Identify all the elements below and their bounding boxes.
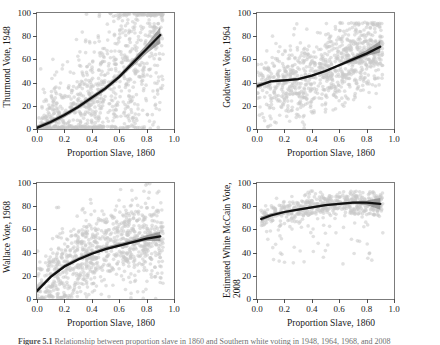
- y-tick-label: 0: [247, 124, 252, 134]
- scatter-points: [37, 13, 165, 129]
- x-tick-mark: [92, 299, 93, 303]
- y-tick-label: 100: [238, 178, 252, 188]
- y-axis-label: Estimated White McCain Vote, 2008: [222, 178, 240, 298]
- figure-caption-label: Figure 5.1: [18, 337, 53, 345]
- x-tick-label: 1.0: [168, 134, 179, 144]
- plot-area-mccain: [257, 183, 394, 299]
- y-tick-mark: [253, 59, 257, 60]
- panel-wallace-1968: Wallace Vote, 1968 020406080100 0.00.20.…: [0, 172, 220, 338]
- x-tick-label: 0.8: [361, 134, 372, 144]
- y-tick-label: 20: [242, 101, 251, 111]
- y-axis-label-line2: 2008: [232, 178, 242, 298]
- x-tick-mark: [64, 129, 65, 133]
- x-tick-label: 0.4: [86, 304, 97, 314]
- x-tick-mark: [394, 129, 395, 133]
- x-tick-label: 0.4: [306, 134, 317, 144]
- y-tick-label: 60: [22, 54, 31, 64]
- x-axis-label: Proportion Slave, 1860: [246, 148, 416, 158]
- figure-container: Thurmond Vote, 1948 020406080100 0.00.20…: [0, 0, 440, 345]
- x-tick-label: 0.2: [279, 304, 290, 314]
- plot-frame: 020406080100 0.00.20.40.60.81.0: [256, 12, 395, 130]
- x-tick-mark: [174, 299, 175, 303]
- y-tick-mark: [33, 83, 37, 84]
- y-tick-label: 0: [27, 124, 32, 134]
- x-tick-mark: [339, 129, 340, 133]
- x-tick-label: 0.8: [141, 134, 152, 144]
- x-tick-label: 0.4: [86, 134, 97, 144]
- y-tick-mark: [33, 206, 37, 207]
- y-axis-label-line1: Estimated White McCain Vote,: [222, 178, 232, 298]
- x-tick-mark: [119, 299, 120, 303]
- y-tick-mark: [253, 229, 257, 230]
- x-tick-mark: [92, 129, 93, 133]
- x-tick-label: 0.0: [31, 134, 42, 144]
- y-tick-label: 60: [242, 54, 251, 64]
- figure-caption-text: Relationship between proportion slave in…: [55, 337, 391, 345]
- y-tick-label: 0: [247, 294, 252, 304]
- x-tick-label: 1.0: [168, 304, 179, 314]
- y-tick-label: 40: [242, 248, 251, 258]
- y-tick-label: 80: [22, 201, 31, 211]
- x-tick-label: 0.6: [334, 304, 345, 314]
- x-axis-label: Proportion Slave, 1860: [246, 318, 416, 328]
- scatter-points: [257, 20, 384, 129]
- plot-frame: 020406080100 0.00.20.40.60.81.0: [256, 182, 395, 300]
- x-tick-label: 0.2: [279, 134, 290, 144]
- x-tick-mark: [37, 129, 38, 133]
- x-tick-label: 0.0: [31, 304, 42, 314]
- y-tick-mark: [253, 276, 257, 277]
- x-tick-label: 0.8: [141, 304, 152, 314]
- x-tick-mark: [64, 299, 65, 303]
- y-tick-label: 40: [22, 78, 31, 88]
- x-axis-label: Proportion Slave, 1860: [26, 148, 196, 158]
- y-tick-label: 60: [242, 224, 251, 234]
- y-tick-mark: [253, 183, 257, 184]
- y-tick-label: 40: [22, 248, 31, 258]
- plot-area-thurmond: [37, 13, 174, 129]
- x-tick-mark: [257, 299, 258, 303]
- x-tick-mark: [339, 299, 340, 303]
- y-tick-label: 20: [22, 101, 31, 111]
- figure-caption: Figure 5.1 Relationship between proporti…: [18, 337, 428, 345]
- y-tick-mark: [33, 13, 37, 14]
- y-tick-label: 0: [27, 294, 32, 304]
- x-tick-label: 0.2: [59, 304, 70, 314]
- x-tick-mark: [257, 129, 258, 133]
- plot-area-wallace: [37, 183, 174, 299]
- y-tick-mark: [253, 106, 257, 107]
- x-tick-label: 0.6: [334, 134, 345, 144]
- y-tick-label: 40: [242, 78, 251, 88]
- x-tick-mark: [284, 129, 285, 133]
- x-tick-mark: [312, 299, 313, 303]
- x-tick-label: 0.0: [251, 134, 262, 144]
- y-axis-label: Goldwater Vote, 1964: [222, 2, 240, 132]
- plot-frame: 020406080100 0.00.20.40.60.81.0: [36, 12, 175, 130]
- y-tick-label: 100: [18, 8, 32, 18]
- panel-goldwater-1964: Goldwater Vote, 1964 020406080100 0.00.2…: [220, 2, 440, 168]
- y-tick-label: 20: [22, 271, 31, 281]
- y-tick-label: 20: [242, 271, 251, 281]
- x-tick-mark: [147, 299, 148, 303]
- plot-area-goldwater: [257, 13, 394, 129]
- y-tick-mark: [33, 229, 37, 230]
- x-tick-mark: [367, 129, 368, 133]
- x-tick-label: 0.0: [251, 304, 262, 314]
- x-axis-label: Proportion Slave, 1860: [26, 318, 196, 328]
- x-tick-mark: [394, 299, 395, 303]
- y-tick-mark: [33, 59, 37, 60]
- x-tick-label: 0.2: [59, 134, 70, 144]
- y-tick-label: 80: [22, 31, 31, 41]
- y-tick-label: 100: [238, 8, 252, 18]
- y-axis-label: Wallace Vote, 1968: [2, 172, 20, 302]
- x-tick-mark: [119, 129, 120, 133]
- x-tick-mark: [312, 129, 313, 133]
- y-tick-label: 80: [242, 31, 251, 41]
- y-tick-mark: [33, 276, 37, 277]
- y-tick-mark: [253, 206, 257, 207]
- y-tick-mark: [253, 13, 257, 14]
- y-tick-label: 100: [18, 178, 32, 188]
- y-tick-mark: [33, 253, 37, 254]
- y-tick-mark: [33, 36, 37, 37]
- panel-mccain-2008: Estimated White McCain Vote, 2008 020406…: [220, 172, 440, 338]
- x-tick-label: 1.0: [388, 134, 399, 144]
